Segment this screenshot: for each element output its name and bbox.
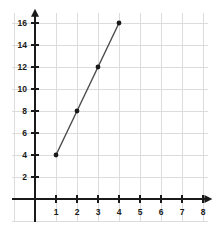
chart-background — [0, 0, 221, 232]
y-axis-tick-label: 14 — [18, 40, 28, 50]
data-point-marker — [54, 153, 59, 158]
data-point-marker — [117, 21, 122, 26]
x-axis-tick-label: 4 — [117, 207, 122, 217]
y-axis-tick-label: 8 — [22, 106, 27, 116]
x-axis-tick-label: 8 — [201, 207, 206, 217]
x-axis-tick-label: 3 — [96, 207, 101, 217]
chart-plot-area: 12345678246810121416 — [0, 0, 221, 232]
x-axis-tick-label: 5 — [138, 207, 143, 217]
y-axis-tick-label: 2 — [22, 172, 27, 182]
y-axis-tick-label: 4 — [22, 150, 27, 160]
y-axis-tick-label: 6 — [22, 128, 27, 138]
x-axis-tick-label: 6 — [159, 207, 164, 217]
data-point-marker — [75, 109, 80, 114]
data-point-marker — [96, 65, 101, 70]
y-axis-tick-label: 12 — [18, 62, 28, 72]
line-chart: 12345678246810121416 — [0, 0, 221, 232]
x-axis-tick-label: 1 — [54, 207, 59, 217]
x-axis-tick-label: 2 — [75, 207, 80, 217]
x-axis-tick-label: 7 — [180, 207, 185, 217]
y-axis-tick-label: 10 — [18, 84, 28, 94]
y-axis-tick-label: 16 — [18, 18, 28, 28]
